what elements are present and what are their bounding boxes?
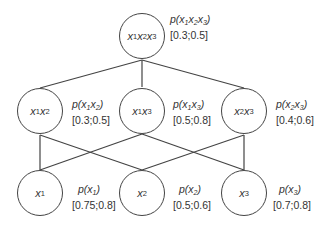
label-x2: p(x2) [0.5;0.6] [173, 183, 211, 212]
edge-x1x2x3-x1x2 [40, 60, 142, 88]
interval-x1: [0.75;0.8] [72, 199, 116, 212]
edge-x1x2x3-x2x3 [142, 60, 244, 88]
interval-x2x3: [0.4;0.6] [276, 114, 314, 127]
label-x1: p(x1) [0.75;0.8] [72, 183, 116, 212]
node-x2: x2 [119, 170, 165, 216]
prob-label-x1x2: p(x1x2) [72, 98, 110, 114]
node-x1x2: x1x2 [17, 88, 63, 134]
label-x2x3: p(x2x3) [0.4;0.6] [276, 98, 314, 127]
label-x1x2: p(x1x2) [0.3;0.5] [72, 98, 110, 127]
interval-x1x3: [0.5;0.8] [173, 114, 211, 127]
label-x1x2x3: p(x1x2x3) [0.3;0.5] [170, 13, 210, 42]
prob-label-x3: p(x3) [273, 183, 311, 199]
label-x3: p(x3) [0.7;0.8] [273, 183, 311, 212]
prob-label-x1x3: p(x1x3) [173, 98, 211, 114]
interval-x2: [0.5;0.6] [173, 199, 211, 212]
prob-label-x1: p(x1) [72, 183, 116, 199]
label-x1x3: p(x1x3) [0.5;0.8] [173, 98, 211, 127]
node-x2x3: x2x3 [221, 88, 267, 134]
node-x1x3: x1x3 [119, 88, 165, 134]
interval-x3: [0.7;0.8] [273, 199, 311, 212]
prob-label-x1x2x3: p(x1x2x3) [170, 13, 210, 29]
interval-x1x2: [0.3;0.5] [72, 114, 110, 127]
prob-label-x2x3: p(x2x3) [276, 98, 314, 114]
prob-label-x2: p(x2) [173, 183, 211, 199]
node-x3: x3 [221, 170, 267, 216]
node-x1: x1 [17, 170, 63, 216]
node-x1x2x3: x1x2x3 [119, 13, 165, 59]
interval-x1x2x3: [0.3;0.5] [170, 29, 210, 42]
